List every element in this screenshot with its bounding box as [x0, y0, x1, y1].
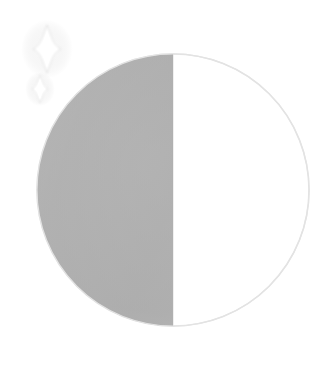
half-moon-illustration [0, 0, 332, 369]
sparkle-small-icon [25, 72, 55, 106]
illustration-canvas: Half moon icon with two sparkles [0, 0, 332, 369]
sparkle-large-icon [21, 20, 73, 79]
